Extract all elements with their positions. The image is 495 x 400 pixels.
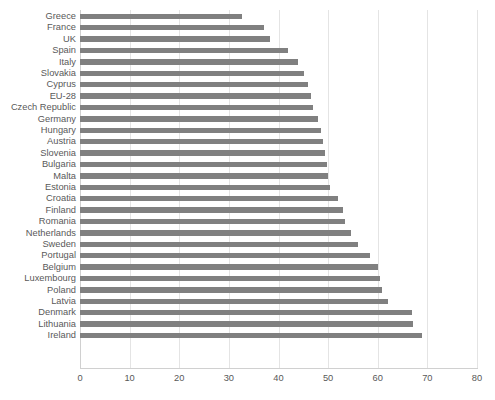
bar[interactable] [80, 299, 388, 304]
bar-row [80, 273, 477, 284]
bar-row [80, 216, 477, 227]
category-label: Finland [0, 205, 76, 216]
bar-row [80, 319, 477, 330]
bar-row [80, 228, 477, 239]
category-label: Germany [0, 114, 76, 125]
category-label: EU-28 [0, 91, 76, 102]
category-label: Slovakia [0, 68, 76, 79]
bar-row [80, 68, 477, 79]
category-label: Cyprus [0, 79, 76, 90]
bar-row [80, 136, 477, 147]
category-label: Croatia [0, 193, 76, 204]
category-label: Slovenia [0, 148, 76, 159]
bar[interactable] [80, 48, 288, 53]
x-tick-label: 50 [323, 371, 333, 385]
bar[interactable] [80, 71, 304, 76]
bar-row [80, 91, 477, 102]
bar-row [80, 45, 477, 56]
category-label: Malta [0, 171, 76, 182]
category-label: Czech Republic [0, 102, 76, 113]
x-tick-label: 80 [472, 371, 482, 385]
x-tick-label: 10 [124, 371, 134, 385]
bar-row [80, 79, 477, 90]
bar[interactable] [80, 333, 422, 338]
bar[interactable] [80, 25, 264, 30]
bar-row [80, 262, 477, 273]
bar-row [80, 57, 477, 68]
bar[interactable] [80, 287, 382, 292]
bar[interactable] [80, 276, 380, 281]
bar[interactable] [80, 162, 327, 167]
bar-row [80, 285, 477, 296]
bar[interactable] [80, 242, 358, 247]
bar-row [80, 11, 477, 22]
bar[interactable] [80, 59, 298, 64]
bar[interactable] [80, 207, 343, 212]
category-label: Latvia [0, 296, 76, 307]
bar[interactable] [80, 128, 321, 133]
bar[interactable] [80, 173, 328, 178]
category-label: Belgium [0, 262, 76, 273]
bar[interactable] [80, 150, 325, 155]
bar[interactable] [80, 105, 313, 110]
gridline [477, 10, 478, 368]
bar-row [80, 114, 477, 125]
bar[interactable] [80, 219, 345, 224]
bar-row [80, 148, 477, 159]
bar-row [80, 330, 477, 341]
x-tick-label: 70 [422, 371, 432, 385]
bar-row [80, 159, 477, 170]
category-label: Luxembourg [0, 273, 76, 284]
category-label: Poland [0, 285, 76, 296]
value-axis-labels: 01020304050607080 [0, 371, 495, 387]
category-label: Denmark [0, 307, 76, 318]
x-tick-label: 30 [224, 371, 234, 385]
bar-row [80, 171, 477, 182]
bar[interactable] [80, 185, 330, 190]
category-label: UK [0, 34, 76, 45]
category-label: Lithuania [0, 319, 76, 330]
bar[interactable] [80, 116, 318, 121]
category-label: Ireland [0, 330, 76, 341]
bar[interactable] [80, 264, 378, 269]
bar[interactable] [80, 321, 413, 326]
category-label: Bulgaria [0, 159, 76, 170]
category-label: France [0, 22, 76, 33]
bar[interactable] [80, 82, 308, 87]
bar[interactable] [80, 196, 338, 201]
x-tick-label: 60 [373, 371, 383, 385]
category-label: Romania [0, 216, 76, 227]
bar[interactable] [80, 230, 351, 235]
chart-caption [70, 389, 490, 400]
category-label: Spain [0, 45, 76, 56]
bar-chart: GreeceFranceUKSpainItalySlovakiaCyprusEU… [0, 0, 495, 400]
bar-row [80, 102, 477, 113]
bar-row [80, 239, 477, 250]
category-label: Austria [0, 136, 76, 147]
category-label: Netherlands [0, 228, 76, 239]
x-tick-label: 20 [174, 371, 184, 385]
category-label: Sweden [0, 239, 76, 250]
category-label: Estonia [0, 182, 76, 193]
x-tick-label: 40 [273, 371, 283, 385]
bar-row [80, 22, 477, 33]
category-label: Hungary [0, 125, 76, 136]
x-axis-baseline [80, 368, 478, 369]
bar-row [80, 182, 477, 193]
bar[interactable] [80, 93, 311, 98]
bar-row [80, 34, 477, 45]
plot-area [80, 10, 477, 368]
bar[interactable] [80, 253, 370, 258]
category-axis-labels: GreeceFranceUKSpainItalySlovakiaCyprusEU… [0, 10, 76, 368]
bar[interactable] [80, 310, 412, 315]
bar-row [80, 250, 477, 261]
category-label: Greece [0, 11, 76, 22]
bar[interactable] [80, 139, 323, 144]
category-label: Italy [0, 57, 76, 68]
bar-row [80, 205, 477, 216]
bar[interactable] [80, 36, 270, 41]
bar-row [80, 193, 477, 204]
bar-row [80, 307, 477, 318]
bar-row [80, 125, 477, 136]
bar[interactable] [80, 14, 242, 19]
